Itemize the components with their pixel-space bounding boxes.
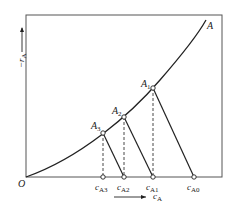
y-axis-arrow-icon <box>20 27 24 32</box>
reactor-graph-diagram: A O A1 A2 A3 cA3 cA2 cA1 cA0 cA −rA <box>0 0 237 209</box>
tick-ca1-marker <box>151 175 155 179</box>
operating-line-3 <box>103 133 124 177</box>
rate-curve <box>26 20 206 177</box>
svg-text:cA0: cA0 <box>187 182 200 194</box>
point-a3-marker <box>101 131 105 135</box>
tick-label-ca0: cA0 <box>187 182 200 194</box>
tick-label-ca3: cA3 <box>95 182 108 194</box>
svg-text:cA2: cA2 <box>117 182 130 194</box>
svg-text:A2: A2 <box>111 105 122 118</box>
svg-text:A1: A1 <box>140 78 151 91</box>
svg-text:cA3: cA3 <box>95 182 108 194</box>
operating-line-2 <box>124 117 153 177</box>
point-label-a2: A2 <box>111 105 122 118</box>
operating-line-1 <box>153 88 194 177</box>
tick-ca0-marker <box>192 175 196 179</box>
point-label-a3: A3 <box>90 120 101 133</box>
origin-label: O <box>18 178 25 189</box>
svg-text:A3: A3 <box>90 120 101 133</box>
point-label-a1: A1 <box>140 78 151 91</box>
tick-ca2-marker <box>122 175 126 179</box>
x-axis-arrow-icon <box>141 195 146 199</box>
point-a1-marker <box>151 86 155 90</box>
point-a2-marker <box>122 115 126 119</box>
curve-label: A <box>206 20 214 31</box>
tick-label-ca2: cA2 <box>117 182 130 194</box>
tick-ca3-marker <box>101 175 105 179</box>
